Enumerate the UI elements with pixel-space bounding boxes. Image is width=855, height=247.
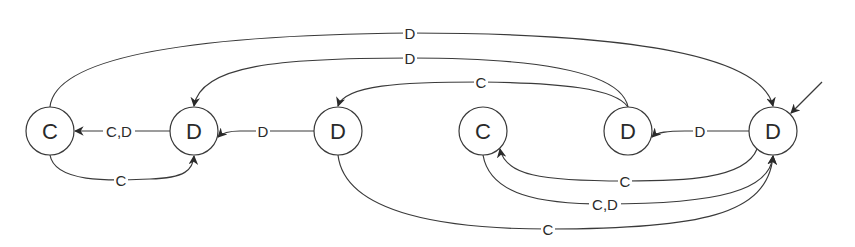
state-node-1: C — [26, 107, 74, 155]
edge-label-n5-n3: C — [474, 74, 488, 91]
state-node-6-initial: D — [749, 107, 797, 155]
svg-text:C: C — [116, 172, 127, 189]
diagram-svg: C,D C D D D C D C C,D C C D D C D D — [0, 0, 855, 247]
svg-text:D: D — [330, 119, 346, 144]
edge-label-n2-n1: C,D — [103, 123, 135, 140]
state-node-3: D — [314, 107, 362, 155]
svg-text:C: C — [476, 74, 487, 91]
edge-label-n1-n6: D — [403, 25, 417, 42]
svg-text:D: D — [258, 123, 269, 140]
svg-text:D: D — [620, 119, 636, 144]
state-node-2: D — [170, 107, 218, 155]
edge-n1-to-n6 — [50, 33, 773, 107]
svg-text:C: C — [620, 173, 631, 190]
svg-text:C: C — [543, 221, 554, 238]
svg-text:D: D — [405, 50, 416, 67]
edge-label-n3-n6: C — [541, 221, 555, 238]
state-diagram: C,D C D D D C D C C,D C C D D C D D — [0, 0, 855, 247]
edge-label-n1-n2: C — [114, 172, 128, 189]
initial-state-arrow — [791, 82, 822, 113]
state-node-5: D — [604, 107, 652, 155]
edge-label-n5-n2: D — [403, 50, 417, 67]
edge-label-n6-n5: D — [693, 123, 707, 140]
svg-text:C: C — [475, 119, 491, 144]
state-node-4: C — [459, 107, 507, 155]
svg-text:D: D — [405, 25, 416, 42]
svg-text:C,D: C,D — [106, 123, 132, 140]
edge-label-n4-n6: C,D — [589, 196, 621, 213]
edge-n3-to-n6 — [338, 155, 773, 229]
svg-text:D: D — [186, 119, 202, 144]
edge-label-n6-n4: C — [618, 173, 632, 190]
svg-text:D: D — [695, 123, 706, 140]
svg-text:C,D: C,D — [592, 196, 618, 213]
edge-label-n3-n2: D — [256, 123, 270, 140]
svg-text:D: D — [765, 119, 781, 144]
svg-text:C: C — [42, 119, 58, 144]
